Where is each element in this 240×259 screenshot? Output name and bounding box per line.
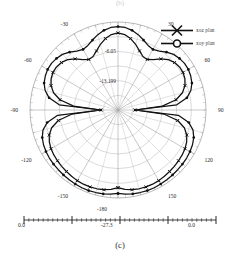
legend-item-xoz: xoz plan (160, 24, 236, 37)
x-marker-icon (168, 170, 171, 173)
o-marker-icon (165, 51, 168, 54)
angle-tick-label: -30 (61, 21, 69, 27)
o-marker-icon (134, 109, 137, 112)
angle-tick-label: -120 (21, 157, 31, 163)
o-marker-icon (178, 57, 181, 60)
o-marker-icon (43, 82, 46, 85)
figure-panel: (b) 0.0306090120150-180-150-120-90-60-30… (0, 0, 240, 259)
legend-label-xoy: xoy plan (196, 38, 215, 49)
o-marker-icon (171, 174, 174, 177)
o-marker-icon (187, 68, 190, 71)
o-marker-icon (74, 183, 77, 186)
scalebar-right-label: 0.0 (188, 222, 195, 228)
chart-legend: xoz plan xoy plan (160, 24, 236, 50)
o-marker-icon (160, 37, 194, 50)
o-marker-icon (48, 97, 51, 100)
o-marker-icon (146, 189, 149, 192)
o-marker-icon (91, 39, 94, 42)
o-marker-icon (62, 174, 65, 177)
top-caption-fragment: (b) (0, 0, 240, 7)
angle-tick-label: 90 (218, 107, 224, 113)
o-marker-icon (131, 29, 134, 32)
o-marker-icon (102, 192, 105, 195)
radial-tick-label: -6.05 (105, 48, 117, 54)
radial-tick-label: -13.199 (99, 78, 116, 84)
o-marker-icon (68, 51, 71, 54)
x-marker-icon (160, 24, 194, 37)
o-marker-icon (103, 29, 106, 32)
o-marker-icon (82, 48, 85, 51)
angle-tick-label: -150 (58, 193, 68, 199)
angle-tick-label: 60 (204, 57, 210, 63)
x-marker-icon (65, 170, 68, 173)
angle-tick-label: 120 (204, 157, 213, 163)
o-marker-icon (52, 163, 55, 166)
o-marker-icon (142, 39, 145, 42)
o-marker-icon (55, 57, 58, 60)
angle-tick-label: -60 (24, 57, 32, 63)
o-marker-icon (192, 136, 195, 139)
o-marker-icon (46, 121, 49, 124)
angle-tick-label: -90 (11, 107, 19, 113)
o-marker-icon (159, 183, 162, 186)
legend-label-xoz: xoz plan (196, 25, 215, 36)
legend-item-xoy: xoy plan (160, 37, 236, 50)
o-marker-icon (191, 82, 194, 85)
figure-caption: (c) (0, 240, 240, 250)
o-marker-icon (117, 25, 120, 28)
angle-tick-label: 150 (168, 193, 177, 199)
o-marker-icon (187, 121, 190, 124)
scalebar-left-label: 0.0 (18, 222, 25, 228)
o-marker-icon (189, 150, 192, 153)
o-marker-icon (152, 48, 155, 51)
o-marker-icon (186, 97, 189, 100)
o-marker-icon (87, 189, 90, 192)
o-marker-icon (131, 192, 134, 195)
o-marker-icon (100, 109, 103, 112)
o-marker-icon (46, 68, 49, 71)
scalebar-mid-label: -27.3 (101, 222, 113, 228)
o-marker-icon (41, 136, 44, 139)
o-marker-icon (181, 163, 184, 166)
o-marker-icon (45, 150, 48, 153)
scalebar-top-label: -180 (97, 206, 107, 212)
o-marker-icon (117, 192, 120, 195)
